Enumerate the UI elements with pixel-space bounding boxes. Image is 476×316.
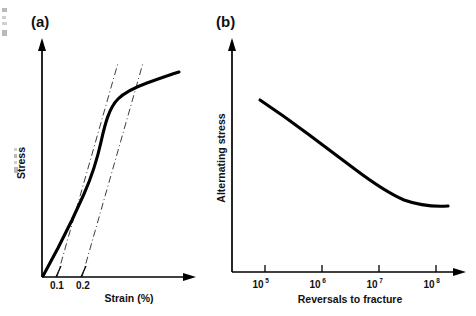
panel-b-xtick-exponent-3: 8 bbox=[436, 277, 440, 284]
panel-b-x-axis-title: Reversals to fracture bbox=[298, 293, 403, 305]
x-axis-arrowhead bbox=[453, 268, 466, 276]
y-axis-arrowhead bbox=[38, 38, 46, 51]
panel-b-label: (b) bbox=[216, 13, 235, 30]
s-n-fatigue-curve bbox=[260, 100, 448, 206]
svg-text:10: 10 bbox=[423, 279, 435, 290]
panel-b-xtick-exponent-0: 5 bbox=[265, 277, 269, 284]
panel-b-x-axis bbox=[232, 268, 466, 276]
panel-a-x-ticks bbox=[56, 266, 86, 277]
svg-text:10: 10 bbox=[366, 279, 378, 290]
panel-b-xtick-label-3: 10 8 bbox=[423, 277, 440, 290]
panel-b-xtick-label-1: 10 6 bbox=[309, 277, 326, 290]
panel-b-xtick-exponent-2: 7 bbox=[379, 277, 383, 284]
panel-b-xtick-label-0: 10 5 bbox=[252, 277, 269, 290]
panel-a: (a) 0.1 0.2 Strain (%) Stress bbox=[15, 13, 196, 304]
stress-strain-curve bbox=[43, 72, 179, 276]
panel-b: (b) 10 5 bbox=[215, 13, 466, 305]
panel-a-y-axis bbox=[38, 38, 46, 277]
figure-container: (a) 0.1 0.2 Strain (%) Stress bbox=[0, 0, 476, 316]
x-axis-arrowhead bbox=[183, 273, 196, 281]
panel-a-x-axis-title: Strain (%) bbox=[104, 292, 153, 304]
y-axis-arrowhead bbox=[228, 38, 236, 51]
scientific-figure: (a) 0.1 0.2 Strain (%) Stress bbox=[0, 0, 476, 316]
panel-b-y-axis bbox=[228, 38, 236, 272]
svg-text:10: 10 bbox=[309, 279, 321, 290]
panel-a-label: (a) bbox=[31, 13, 49, 30]
panel-b-xtick-label-2: 10 7 bbox=[366, 277, 383, 290]
panel-a-xtick-label-1: 0.2 bbox=[76, 280, 90, 291]
panel-b-x-ticks bbox=[265, 265, 436, 272]
svg-text:10: 10 bbox=[252, 279, 264, 290]
panel-a-x-axis bbox=[42, 273, 196, 281]
offset-line-0-2-percent bbox=[82, 63, 143, 277]
panel-a-y-axis-title: Stress bbox=[15, 147, 27, 179]
panel-a-xtick-label-0: 0.1 bbox=[50, 280, 64, 291]
panel-b-xtick-exponent-1: 6 bbox=[322, 277, 326, 284]
offset-line-0-1-percent bbox=[57, 63, 118, 277]
panel-b-y-axis-title: Alternating stress bbox=[215, 113, 227, 202]
